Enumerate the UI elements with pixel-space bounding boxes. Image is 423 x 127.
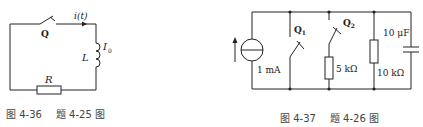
caption-problem-number: 题 4-26 图 (330, 113, 379, 124)
resistor-5k-label: 5 kΩ (336, 64, 358, 74)
caption-fig-4-36: 图 4-36题 4-25 图 (6, 106, 105, 121)
resistor-r-icon (37, 86, 61, 94)
caption-figure-number: 图 4-36 (6, 109, 42, 120)
source-label: 1 mA (257, 65, 281, 75)
resistor-r-label: R (44, 74, 53, 85)
initial-current-subscript: 0 (108, 47, 112, 54)
current-label: i(t) (74, 11, 88, 21)
current-source-icon (241, 39, 263, 61)
switch-q-label: Q (41, 29, 49, 39)
inductor-icon (96, 43, 100, 67)
wire-right-bottom (61, 67, 96, 90)
capacitor-icon (403, 47, 419, 52)
switch-q-icon (40, 16, 55, 24)
switch-q2-label: Q2 (343, 18, 355, 29)
switch-q2-icon (329, 12, 341, 44)
inductor-label: L (81, 52, 89, 63)
switch-q1-icon (290, 41, 304, 57)
figure-4-36: Q i(t) L I 0 R 图 4-36题 4-25 图 (0, 0, 140, 127)
capacitor-label: 10 μF (383, 28, 409, 38)
caption-fig-4-37: 图 4-37题 4-26 图 (280, 110, 379, 125)
resistor-10k-label: 10 kΩ (377, 68, 404, 78)
source-direction-arrow-icon (233, 37, 238, 62)
resistor-10k-icon (370, 40, 378, 63)
wire-left (10, 24, 37, 90)
resistor-5k-icon (325, 57, 333, 79)
switch-q1-label: Q1 (294, 25, 306, 36)
rc-switch-circuit-diagram: 1 mA Q1 Q2 5 kΩ 10 kΩ 10 μF (220, 0, 423, 127)
caption-problem-number: 题 4-25 图 (56, 109, 105, 120)
caption-figure-number: 图 4-37 (280, 113, 316, 124)
wire-top-right (56, 24, 96, 43)
current-arrow-icon (82, 22, 87, 27)
figure-4-37: 1 mA Q1 Q2 5 kΩ 10 kΩ 10 μF (220, 0, 423, 127)
